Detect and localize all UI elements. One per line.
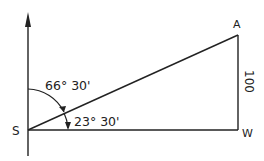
label-W: W [242, 127, 253, 140]
label-side-AW: 100 [242, 70, 256, 93]
label-angle-from-horizontal: 23° 30' [74, 114, 119, 129]
label-A: A [233, 18, 241, 31]
arc-arrow-icon-1 [59, 106, 66, 112]
label-angle-from-north: 66° 30' [45, 78, 90, 93]
label-S: S [12, 124, 20, 138]
arc-arrow-icon-2 [65, 122, 71, 130]
north-arrow-icon [25, 12, 31, 27]
bearing-diagram: S A W 66° 30' 23° 30' 100 [0, 0, 264, 161]
